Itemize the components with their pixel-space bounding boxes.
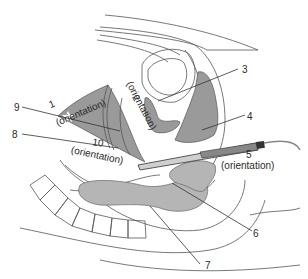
label-4-number: 4 bbox=[247, 111, 253, 122]
label-5-note: (orientation) bbox=[221, 160, 274, 171]
label-7-number: 7 bbox=[205, 260, 211, 271]
label-1-number: 1 bbox=[47, 98, 57, 110]
label-2-note: (orientation) bbox=[124, 79, 159, 131]
label-9-number: 9 bbox=[14, 102, 20, 113]
anatomy-diagram: 1 (orientation) (orientation) 2 3 4 5 (o… bbox=[0, 0, 308, 279]
label-10-number: 10 bbox=[92, 136, 105, 149]
label-8-number: 8 bbox=[12, 129, 18, 140]
label-6-number: 6 bbox=[253, 228, 259, 239]
label-3-number: 3 bbox=[242, 64, 248, 75]
label-2: (orientation) 2 bbox=[124, 79, 159, 131]
label-5-number: 5 bbox=[246, 149, 252, 160]
cervix-region bbox=[175, 72, 218, 143]
ultrasound-probe bbox=[138, 141, 300, 170]
